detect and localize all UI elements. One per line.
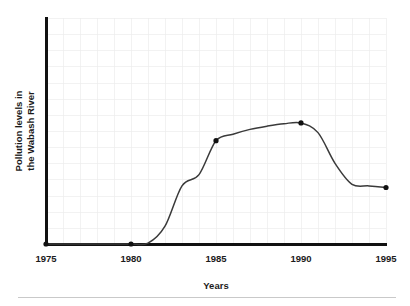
data-point-marker <box>128 241 133 246</box>
y-axis-title: Pollution levels in the Wabash River <box>13 90 36 171</box>
x-tick-label-1980: 1980 <box>120 253 141 264</box>
vertical-gridlines <box>47 18 387 244</box>
x-tick-label-1990: 1990 <box>290 253 311 264</box>
chart-figure: 19751980198519901995 Years Pollution lev… <box>0 0 410 306</box>
data-point-marker <box>43 241 48 246</box>
x-tick-label-1975: 1975 <box>35 253 57 264</box>
x-tick-label-1985: 1985 <box>205 253 227 264</box>
data-point-marker <box>298 120 303 125</box>
pollution-line-chart: 19751980198519901995 Years Pollution lev… <box>0 0 410 306</box>
data-point-marker <box>213 138 218 143</box>
x-tick-label-1995: 1995 <box>375 253 397 264</box>
x-axis-title: Years <box>203 280 228 291</box>
y-axis-title-line-1: Pollution levels in <box>13 90 24 171</box>
data-point-marker <box>383 185 388 190</box>
y-axis-title-line-2: the Wabash River <box>25 91 36 171</box>
